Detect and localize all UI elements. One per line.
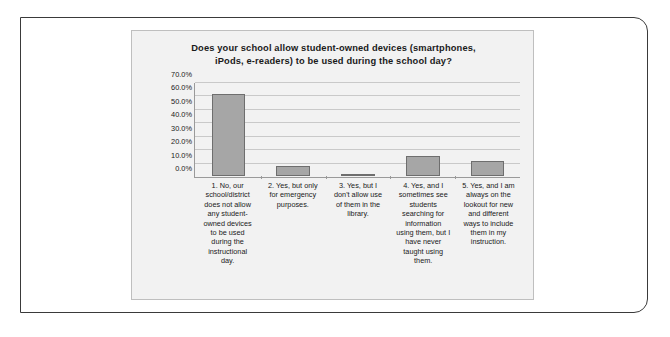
category-label-line: taught using [393,247,454,256]
chart-title-line-1: Does your school allow student-owned dev… [146,42,521,55]
y-axis-tick-label: 40.0% [171,111,192,119]
y-axis-tick-label: 60.0% [171,84,192,92]
bars-group [196,83,520,176]
category-label-line: searching for [393,209,454,218]
x-axis-category-label: 1. No, ourschool/districtdoes not allowa… [195,181,260,266]
bar-slot [326,83,391,176]
category-label-line: information [393,219,454,228]
plot-region: 70.0%60.0%50.0%40.0%30.0%20.0%10.0%0.0% [194,83,520,178]
category-label-line: them. [393,256,454,265]
x-axis-tick-mark [455,176,456,179]
category-label-line: 5. Yes, and I am [458,181,519,190]
category-label-line: have never [393,237,454,246]
y-axis-tick-label: 20.0% [171,138,192,146]
x-axis-tick-mark [390,176,391,179]
category-label-line: school/district [197,190,258,199]
gridline [195,176,520,177]
category-label-line: sometimes see [393,190,454,199]
y-axis-tick-label: 0.0% [175,165,192,173]
bar-slot [390,83,455,176]
bar-slot [261,83,326,176]
x-axis-category-label: 3. Yes, but Idon't allow useof them in t… [325,181,390,266]
chart-container: Does your school allow student-owned dev… [131,30,534,300]
x-axis-category-label: 5. Yes, and I amalways on thelookout for… [456,181,521,266]
category-label-line: always on the [458,190,519,199]
y-axis-tick-label: 30.0% [171,125,192,133]
y-axis-tick-label: 10.0% [171,152,192,160]
category-label-line: don't allow use [327,190,388,199]
y-axis-tick-label: 70.0% [171,71,192,79]
x-axis-category-labels: 1. No, ourschool/districtdoes not allowa… [195,181,521,266]
category-label-line: instruction. [458,237,519,246]
category-label-line: 3. Yes, but I [327,181,388,190]
bar[interactable] [406,156,440,176]
chart-title-line-2: iPods, e-readers) to be used during the … [146,55,521,68]
category-label-line: library. [327,209,388,218]
category-label-line: of them in the [327,200,388,209]
category-label-line: students [393,200,454,209]
category-label-line: ways to include [458,219,519,228]
bar[interactable] [341,174,375,176]
bar-slot [455,83,520,176]
category-label-line: owned devices [197,219,258,228]
category-label-line: purposes. [262,200,323,209]
scanned-page-sheet: Does your school allow student-owned dev… [20,17,648,313]
category-label-line: any student- [197,209,258,218]
category-label-line: day. [197,256,258,265]
category-label-line: 2. Yes, but only [262,181,323,190]
bar[interactable] [212,94,246,176]
x-axis-category-label: 4. Yes, and Isometimes seestudentssearch… [391,181,456,266]
chart-title: Does your school allow student-owned dev… [146,42,521,68]
category-label-line: lookout for new [458,200,519,209]
bar[interactable] [276,166,310,176]
category-label-line: does not allow [197,200,258,209]
category-label-line: 1. No, our [197,181,258,190]
bar-slot [196,83,261,176]
category-label-line: and different [458,209,519,218]
x-axis-category-label: 2. Yes, but onlyfor emergencypurposes. [260,181,325,266]
plot-area: 70.0%60.0%50.0%40.0%30.0%20.0%10.0%0.0% [194,83,520,178]
category-label-line: using them, but I [393,228,454,237]
category-label-line: during the [197,237,258,246]
category-label-line: them in my [458,228,519,237]
x-axis-tick-mark [326,176,327,179]
category-label-line: to be used [197,228,258,237]
category-label-line: for emergency [262,190,323,199]
x-axis-tick-mark [261,176,262,179]
category-label-line: instructional [197,247,258,256]
category-label-line: 4. Yes, and I [393,181,454,190]
bar[interactable] [471,161,505,176]
y-axis-tick-label: 50.0% [171,98,192,106]
